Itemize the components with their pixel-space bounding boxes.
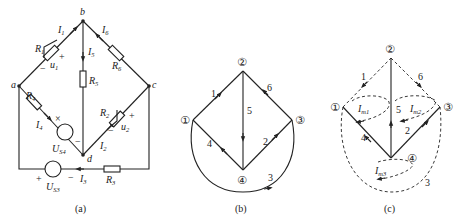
branch-5-label-c: 5: [396, 104, 401, 115]
resistor-r5: [80, 71, 86, 87]
mesh-2-label: Im2: [409, 103, 422, 115]
node-2-label-c: ②: [385, 43, 395, 56]
label-r1-plus: +: [59, 51, 65, 62]
node-a-dot: [17, 84, 21, 88]
label-i6: I6: [101, 24, 109, 36]
branch-1-label-c: 1: [361, 71, 366, 82]
branch-4: [193, 120, 243, 170]
node-b-dot: [81, 19, 85, 23]
branch-1-label: 1: [211, 88, 216, 99]
label-i4: I4: [35, 119, 43, 131]
label-i2: I2: [99, 140, 107, 152]
panel-b-graph: ② ① ③ ④ 1 6 5 4 2 3 (b): [180, 56, 305, 215]
node-d-label: d: [87, 153, 93, 164]
node-c-label: c: [152, 79, 157, 90]
node-2-label: ②: [237, 56, 247, 69]
node-c-dot: [147, 84, 151, 88]
arrow-b4: [222, 149, 227, 154]
node-b-label: b: [80, 6, 85, 17]
arrow-c4: [366, 137, 371, 142]
arrow-mesh2: [402, 120, 408, 121]
arrow-i6: [97, 35, 103, 41]
branch-6-label: 6: [267, 82, 272, 93]
label-r5: R5: [88, 75, 99, 87]
arrow-c1: [363, 82, 367, 86]
label-i5: I5: [87, 46, 95, 58]
arrow-c6: [416, 82, 420, 86]
branch-2-label: 2: [263, 136, 268, 147]
arrow-mesh3: [379, 178, 385, 179]
arrow-b2: [272, 135, 277, 140]
caption-c: (c): [384, 203, 395, 215]
caption-b: (b): [235, 203, 247, 215]
label-r1: R1: [34, 43, 44, 55]
label-us3-minus: −: [68, 172, 74, 183]
voltage-source-us3: [45, 161, 61, 177]
branch-3-label: 3: [268, 172, 273, 183]
voltage-source-us4: [57, 124, 73, 140]
panel-c-graph: ② ① ③ ④ 1 6 5 4 2 3 Im1 Im2 Im3 (c): [330, 43, 453, 215]
resistor-r6: [108, 45, 124, 61]
resistor-r3: [104, 166, 120, 172]
branch-5-label: 5: [247, 105, 252, 116]
label-r2-plus: +: [129, 110, 135, 121]
label-i1: I1: [57, 24, 65, 36]
label-r4: R4: [25, 90, 36, 102]
node-1-label-c: ①: [330, 101, 340, 114]
label-r3: R3: [105, 174, 116, 186]
label-us4-minus: −: [75, 136, 81, 147]
node-a-label: a: [11, 79, 16, 90]
label-us4-cross: ×: [55, 113, 61, 124]
label-r2: R2: [99, 107, 110, 119]
node-4-label-c: ④: [407, 152, 417, 165]
label-u2: u2: [121, 121, 130, 133]
label-u1: u1: [50, 59, 58, 71]
mesh-1-label: Im1: [357, 103, 369, 115]
arrow-i4: [44, 113, 50, 119]
node-d-dot: [81, 153, 85, 157]
arrow-i1: [70, 28, 76, 34]
branch-2-label-c: 2: [405, 125, 410, 136]
branch-4-label: 4: [207, 138, 212, 149]
mesh-3-label: Im3: [374, 165, 387, 177]
label-r1-minus: −: [40, 63, 46, 74]
label-r2-minus: −: [108, 125, 114, 136]
node-3-label: ③: [295, 114, 305, 127]
label-us3-plus: +: [36, 173, 42, 184]
label-us3: US3: [46, 181, 60, 193]
label-r6: R6: [111, 60, 122, 72]
link-branch-6: [391, 58, 440, 107]
node-1-label: ①: [180, 114, 190, 127]
branch-6-label-c: 6: [418, 71, 423, 82]
label-i3: I3: [79, 173, 87, 185]
arrow-mesh1: [358, 121, 364, 122]
branch-3-label-c: 3: [425, 177, 430, 188]
panel-a-circuit: b a c d I1 I6 I5 R1 + − u1 R6 R5 R4 × I4…: [11, 6, 157, 215]
circuit-figure: b a c d I1 I6 I5 R1 + − u1 R6 R5 R4 × I4…: [0, 0, 461, 224]
caption-a: (a): [75, 203, 86, 215]
node-3-label-c: ③: [443, 101, 453, 114]
node-4-label: ④: [237, 174, 247, 187]
branch-4-label-c: 4: [361, 132, 366, 143]
label-us4: US4: [52, 143, 66, 155]
